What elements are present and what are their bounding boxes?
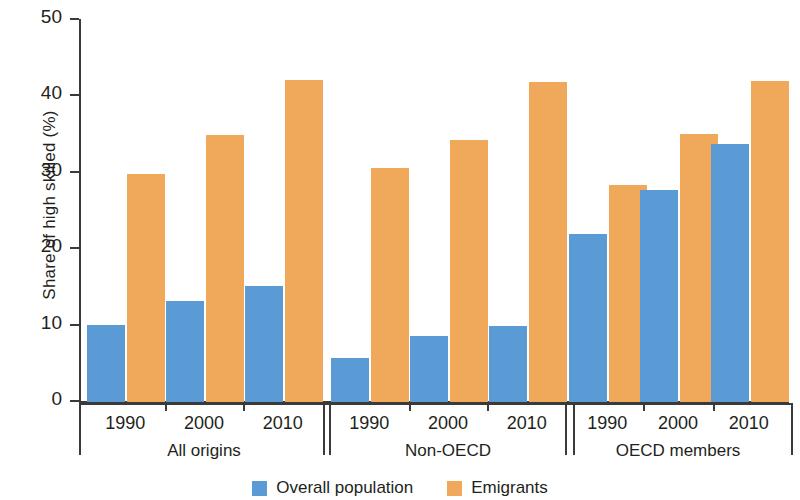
y-axis-tick: 30 xyxy=(70,171,79,173)
bar xyxy=(450,140,488,402)
bar xyxy=(410,336,448,402)
y-axis-tick: 50 xyxy=(70,18,79,20)
category-tick xyxy=(243,403,245,411)
category-tick xyxy=(409,403,411,411)
legend-item: Overall population xyxy=(252,478,413,498)
legend-swatch-icon xyxy=(252,481,267,496)
x-axis-year-label: 2010 xyxy=(719,413,779,434)
bar xyxy=(285,80,323,402)
bar xyxy=(529,82,567,402)
chart-legend: Overall populationEmigrants xyxy=(0,478,800,498)
group-separator xyxy=(79,403,81,455)
x-axis-year-label: 2000 xyxy=(418,413,478,434)
bar xyxy=(206,135,244,402)
legend-label: Overall population xyxy=(276,478,413,498)
legend-label: Emigrants xyxy=(471,478,548,498)
x-axis-year-label: 1990 xyxy=(95,413,155,434)
bar xyxy=(640,190,678,402)
group-separator xyxy=(791,403,793,455)
y-axis-tick-label: 20 xyxy=(41,235,62,257)
x-axis-year-label: 1990 xyxy=(339,413,399,434)
x-axis-group-label: Non-OECD xyxy=(330,441,566,461)
legend-swatch-icon xyxy=(447,481,462,496)
group-separator xyxy=(565,403,567,455)
y-axis-tick-label: 0 xyxy=(51,388,62,410)
bar-chart: Share of high skilled (%) 01020304050 Ov… xyxy=(0,0,800,500)
y-axis-tick: 20 xyxy=(70,247,79,249)
bar xyxy=(87,325,125,402)
x-axis-year-label: 2010 xyxy=(497,413,557,434)
bar xyxy=(245,286,283,402)
group-separator xyxy=(323,403,325,455)
bar xyxy=(166,301,204,402)
x-axis-year-label: 2000 xyxy=(174,413,234,434)
category-tick xyxy=(165,403,167,411)
y-axis-tick: 40 xyxy=(70,94,79,96)
bar xyxy=(331,358,369,402)
x-axis-year-label: 2000 xyxy=(648,413,708,434)
group-baseline xyxy=(323,403,573,405)
group-baseline xyxy=(565,403,791,405)
y-axis-tick-label: 50 xyxy=(41,6,62,28)
y-axis-tick-label: 30 xyxy=(41,159,62,181)
bar xyxy=(371,168,409,402)
y-axis-tick: 0 xyxy=(70,400,79,402)
category-tick xyxy=(487,403,489,411)
bar xyxy=(489,326,527,402)
category-tick xyxy=(643,403,645,411)
x-axis-year-label: 2010 xyxy=(253,413,313,434)
category-tick xyxy=(713,403,715,411)
group-baseline xyxy=(79,403,329,405)
plot-area: 01020304050 xyxy=(79,20,788,402)
bar xyxy=(569,234,607,402)
y-axis-tick: 10 xyxy=(70,324,79,326)
x-axis-group-label: All origins xyxy=(86,441,322,461)
y-axis-tick-label: 40 xyxy=(41,82,62,104)
bar xyxy=(751,81,789,402)
legend-item: Emigrants xyxy=(447,478,548,498)
bar xyxy=(711,144,749,402)
x-axis-group-label: OECD members xyxy=(572,441,784,461)
x-axis-year-label: 1990 xyxy=(577,413,637,434)
bar xyxy=(127,174,165,402)
y-axis-tick-label: 10 xyxy=(41,312,62,334)
